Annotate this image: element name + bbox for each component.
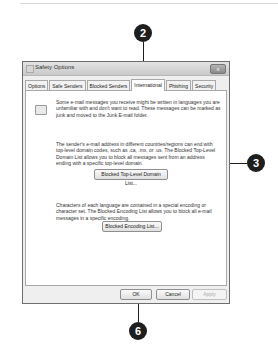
apply-button[interactable]: Apply: [192, 289, 227, 300]
tab-international[interactable]: International: [131, 79, 165, 91]
blocked-encoding-list-button[interactable]: Blocked Encoding List...: [102, 221, 162, 232]
encoding-description: Characters of each language are containe…: [56, 202, 221, 221]
callout-6: 6: [129, 322, 147, 340]
close-button[interactable]: x: [210, 64, 226, 74]
ok-button[interactable]: OK: [120, 289, 152, 300]
intro-text: Some e-mail messages you receive might b…: [56, 99, 221, 118]
blocked-tld-list-button[interactable]: Blocked Top-Level Domain List...: [94, 169, 168, 180]
callout-2: 2: [134, 24, 152, 42]
page-divider: [20, 3, 278, 4]
safety-options-dialog: Safety Options x Options Safe Senders Bl…: [22, 61, 230, 304]
tld-description: The sender's e-mail address in different…: [56, 141, 221, 166]
callout-3: 3: [247, 154, 265, 172]
international-tab-panel: Some e-mail messages you receive might b…: [25, 90, 227, 286]
cancel-button[interactable]: Cancel: [156, 289, 190, 300]
app-icon: [26, 65, 34, 73]
dialog-title: Safety Options: [35, 64, 74, 70]
folder-icon: [35, 105, 47, 115]
title-bar[interactable]: Safety Options x: [23, 62, 229, 76]
tab-strip: Options Safe Senders Blocked Senders Int…: [25, 79, 217, 90]
